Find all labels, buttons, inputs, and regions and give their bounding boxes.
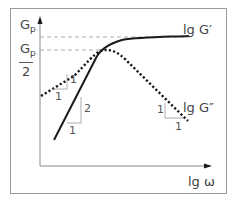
gp-half-fraction-bar (19, 62, 33, 63)
lg-g-double-prime-label: lg G″ (183, 101, 214, 114)
slope-rise-g-double-prime-low: 1 (70, 74, 77, 85)
slope-rise-g-prime-low: 2 (84, 103, 91, 114)
g-double-prime-curve (41, 50, 188, 121)
slope-triangle-g-double-prime-high (165, 103, 183, 118)
x-axis-label: lg ω (188, 175, 215, 188)
slope-rise-g-double-prime-high: 1 (157, 104, 164, 115)
slope-run-g-double-prime-high: 1 (175, 121, 182, 132)
y-axis-arrow-icon (38, 16, 43, 24)
slope-run-g-prime-low: 1 (69, 125, 76, 136)
x-axis-arrow-icon (204, 164, 212, 169)
gp-half-label-denominator: 2 (22, 65, 30, 78)
gp-half-label-numerator: Gp (20, 42, 36, 55)
lg-g-prime-label: lg G′ (183, 23, 212, 36)
gp-label: Gp (20, 18, 36, 31)
slope-run-g-double-prime-low: 1 (55, 91, 62, 102)
